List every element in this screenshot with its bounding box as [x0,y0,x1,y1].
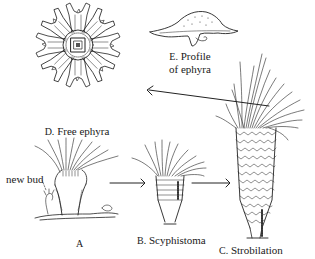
label-scyphistoma: B. Scyphistoma [137,234,206,247]
label-ephyra-profile-line2: of ephyra [155,63,225,75]
arrow-a-to-b [110,179,145,187]
strobilation-illustration [216,54,304,238]
ephyra-profile-illustration [150,11,238,46]
label-ephyra-profile: E. Profile [155,50,225,63]
free-ephyra-illustration [36,3,120,87]
label-new-bud: new bud [6,173,44,185]
label-name: Strobilation [231,244,283,256]
label-letter: E. [169,51,178,62]
label-polyp-a: A [76,238,83,250]
label-name: Free ephyra [57,125,109,137]
label-free-ephyra: D. Free ephyra [32,125,122,138]
label-letter: B. [137,235,146,246]
label-name: Profile [181,50,211,62]
arrow-c-to-d [147,86,269,106]
scyphistoma-illustration [132,140,206,224]
arrow-b-to-c [192,179,230,187]
label-strobilation: C. Strobilation [219,244,283,257]
label-letter: C. [219,245,228,256]
label-name: Scyphistoma [149,234,206,246]
polyp-illustration [35,138,118,220]
label-letter: D. [45,126,55,137]
